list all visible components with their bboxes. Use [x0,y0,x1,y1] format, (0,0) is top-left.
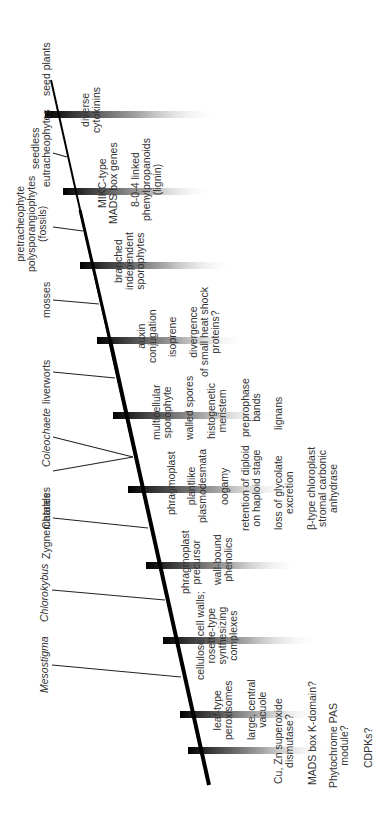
trait-label: phragmoplast [166,451,177,515]
taxon-seed-plants: seed plants [41,42,52,96]
trait-label: MIKC-type MADS box genes [97,142,119,224]
trait-label: walled spores [184,376,195,440]
trait-label: wall-bound phenolics [212,534,234,585]
trait-label: isoprene [167,317,178,357]
trait-label: auxin conjugation [136,309,158,363]
trait-label: lignans [273,397,284,430]
trait-label: Cu, Zn superoxide dismutase? [273,698,295,784]
trait-label: divergence of small heat shock proteins? [188,287,221,377]
trait-label: branched independent sporophytes [113,232,146,290]
trait-label: cellulose cell walls; rosette-type synth… [195,591,239,680]
taxon-mesostigma: Mesostigma [39,636,50,693]
trait-label: preprophase bands [240,378,262,437]
trait-label: plantlike plasmodesmata [186,449,208,523]
taxon-liverworts: liverworts [41,360,52,404]
trait-label: phragmoplast precursor [180,530,202,594]
trait-label: β-type chloroplast stromal carbonic anhy… [306,447,339,530]
trait-label: loss of glycolate excretion [273,455,295,530]
taxon-mosses: mosses [41,282,52,318]
taxon-chlorokybus: Chlorokybus [39,564,50,622]
taxon-coleochaete: Coleochaete [41,408,52,467]
taxon-zygnematales: Zygnematales [41,493,52,559]
trait-label: leaf-type peroxisomes [212,680,234,740]
taxon-pretracheophyte: pretracheophyte polysporangiophytes (fos… [15,176,48,272]
trait-label: oogamy [219,468,230,505]
trait-label: Phytochrome PAS module? [328,703,350,788]
trait-label: large, central vacuole [246,679,268,740]
trait-label: MADS box K-domain? [307,681,318,785]
trait-label: CDPKs? [363,728,374,768]
trait-label: diverse cytokinins [80,87,102,133]
trait-label: 8-0-4 linked phenylpropanoids (lignin) [130,138,163,221]
trait-label: multicellular sporophyte [151,385,173,440]
trait-label: histogenetic meristem [206,383,228,439]
trait-label: retention of diploid on haploid stage [240,445,262,531]
cladogram-lines [0,0,391,824]
